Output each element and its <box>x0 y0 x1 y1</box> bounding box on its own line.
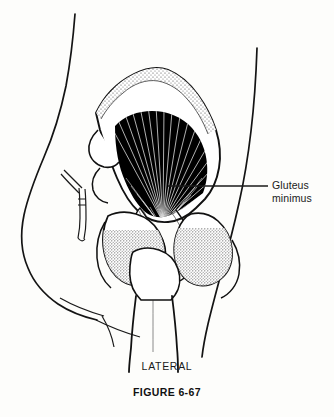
figure-page: Gluteus minimus LATERAL FIGURE 6-67 <box>0 0 334 417</box>
ischial-tuberosity <box>170 213 240 298</box>
inguinal-ligament-sketch <box>61 170 86 241</box>
body-contour-anterior <box>22 14 97 320</box>
body-contour-posterior <box>202 48 257 357</box>
callout-label-line2: minimus <box>272 192 312 205</box>
figure-caption: FIGURE 6-67 <box>0 386 334 399</box>
callout-label-line1: Gluteus <box>272 179 312 192</box>
gluteal-fold-contour <box>60 298 140 347</box>
greater-trochanter <box>130 248 180 300</box>
view-caption: LATERAL <box>0 360 334 373</box>
anatomical-illustration <box>0 0 334 417</box>
callout-label-gluteus-minimus: Gluteus minimus <box>272 179 312 204</box>
